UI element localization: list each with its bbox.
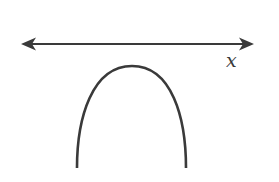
x-axis-label: x [226, 49, 237, 71]
parabola-diagram: x [0, 0, 279, 182]
parabola-curve [77, 66, 186, 168]
